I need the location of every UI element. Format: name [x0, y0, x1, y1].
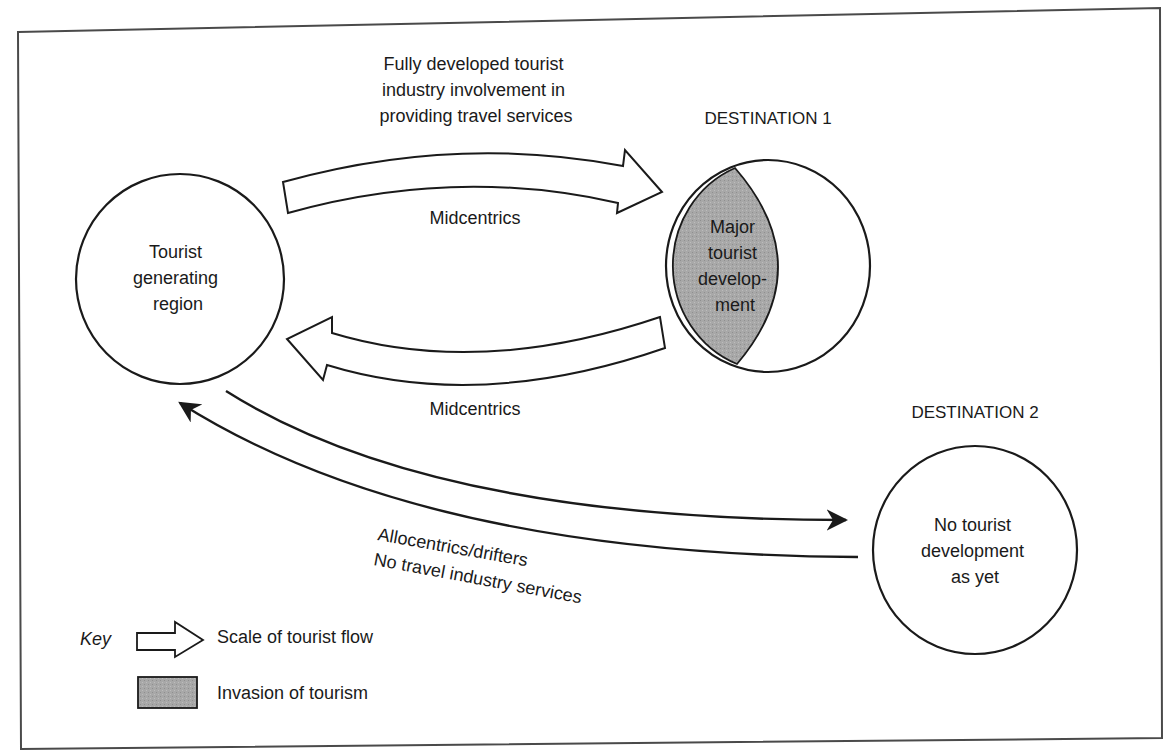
key-title: Key — [80, 629, 112, 649]
destination-1-label: tourist — [708, 243, 757, 263]
generating-region-node: Tourist generating region — [76, 174, 284, 384]
outbound-flow-block-arrow-icon — [283, 150, 662, 213]
destination-2-label: No tourist — [934, 515, 1011, 535]
destination-2-label: as yet — [951, 567, 999, 587]
block-arrow-icon — [137, 622, 203, 657]
key-item-label: Invasion of tourism — [217, 683, 368, 703]
destination-2-label: development — [921, 541, 1024, 561]
key-item-label: Scale of tourist flow — [217, 627, 374, 647]
key-legend: Key Scale of tourist flow Invasion of to… — [80, 622, 374, 708]
destination-2-node: No tourist development as yet — [873, 446, 1077, 654]
minor-outbound-arrow-icon — [226, 391, 846, 520]
destination-1-label: develop- — [698, 269, 767, 289]
outbound-description: Fully developed tourist industry involve… — [379, 54, 572, 126]
generating-region-label: Tourist — [149, 242, 202, 262]
generating-region-label: region — [153, 294, 203, 314]
return-flow-block-arrow-icon — [287, 317, 665, 385]
destination-1-label: ment — [715, 295, 755, 315]
return-flow-label: Midcentrics — [429, 399, 520, 419]
generating-region-label: generating — [133, 268, 218, 288]
outbound-flow-label: Midcentrics — [429, 208, 520, 228]
outbound-description-line: industry involvement in — [382, 80, 565, 100]
gray-swatch-icon — [138, 677, 197, 708]
minor-return-arrow-icon — [180, 403, 858, 557]
outbound-description-line: Fully developed tourist — [383, 54, 563, 74]
outbound-description-line: providing travel services — [379, 106, 572, 126]
destination-1-label: Major — [710, 217, 755, 237]
tourism-diagram: Fully developed tourist industry involve… — [0, 0, 1176, 753]
destination-2-title: DESTINATION 2 — [911, 403, 1038, 422]
destination-1-node: Major tourist develop- ment — [666, 160, 870, 372]
destination-1-title: DESTINATION 1 — [704, 109, 831, 128]
